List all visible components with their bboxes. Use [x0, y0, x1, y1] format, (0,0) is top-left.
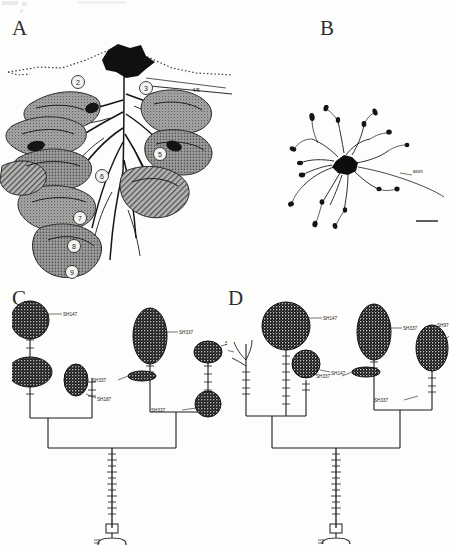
node-label: SH97	[437, 323, 449, 328]
node-label: SH147	[323, 316, 337, 321]
terminal-nodes	[262, 302, 448, 378]
lobule-number: 8	[72, 243, 76, 250]
panel-label-a: A	[12, 18, 28, 39]
node-label: SH337	[151, 408, 165, 413]
node-label: SH337	[403, 326, 417, 331]
scan-artifact	[2, 1, 18, 5]
node-label: SH337	[316, 374, 330, 379]
panel-d-dendrogram: SH147 SH97 SH147 SH337 SH337 SH97 SH337	[228, 300, 449, 545]
node-label: SH129	[225, 341, 227, 346]
panel-a-side-label: 4/5	[192, 87, 200, 93]
scan-artifact	[20, 9, 23, 13]
node-label: SH147	[331, 371, 345, 376]
panel-a-cerebellar-section: 2 3 5 6 7 8 9 4/5	[0, 42, 235, 287]
node-label: SH337	[179, 330, 193, 335]
lobule-number: 2	[76, 79, 80, 86]
lobule-number: 3	[144, 85, 148, 92]
node-label: SH337	[92, 378, 106, 383]
node-label: SH187	[97, 397, 111, 402]
panel-c-dendrogram: SH147 SH97 SH187 SH337 SH337 SH129 SH337	[12, 300, 227, 545]
node-label: SH147	[63, 312, 77, 317]
scan-artifact	[22, 2, 27, 6]
lobule-number: 5	[158, 151, 162, 158]
figure-canvas: A B C D	[0, 0, 449, 545]
panel-label-b: B	[320, 18, 335, 39]
terminal-nodes	[12, 301, 222, 417]
panel-b-neuron-tracing: axon	[288, 105, 446, 230]
node-label: SH337	[374, 398, 388, 403]
lobule-number: 6	[100, 173, 104, 180]
lobule-number: 9	[70, 269, 74, 276]
lobule-number: 7	[78, 215, 82, 222]
scan-artifact	[78, 1, 126, 4]
panel-b-axon-label: axon	[413, 169, 423, 174]
